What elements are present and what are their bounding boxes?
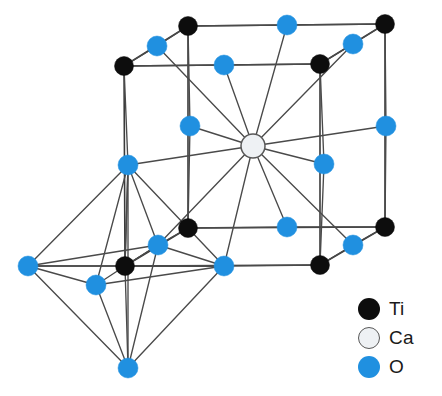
calcium-oxygen-bond [158, 146, 253, 245]
octahedron-edge [96, 285, 128, 368]
atom-ti-back-bot-left [179, 219, 198, 238]
legend-item-ti: Ti [358, 294, 442, 323]
element-legend: Ti Ca O [358, 294, 442, 390]
atom-ti-back-top-right [376, 15, 395, 34]
atom-group [18, 15, 396, 379]
atom-o-top-right-edge [343, 34, 363, 54]
atom-o-mid-right-upper [376, 116, 396, 136]
calcium-oxygen-bond [224, 146, 253, 266]
legend-label-ti: Ti [389, 298, 405, 320]
atom-o-bot-left-edge [148, 235, 168, 255]
atom-o-top-left-edge [147, 36, 167, 56]
atom-o-mid-right [314, 154, 334, 174]
atom-ti-back-top-left [179, 17, 198, 36]
atom-o-oct-front [86, 275, 106, 295]
atom-o-oct-bottom [118, 358, 138, 378]
atom-o-bot-back-edge [277, 217, 297, 237]
ti-swatch-icon [358, 298, 380, 320]
atom-o-oct-left [18, 256, 38, 276]
atom-o-bot-front-edge [214, 256, 234, 276]
ca-swatch-icon [358, 327, 380, 349]
calcium-oxygen-bond [128, 146, 253, 165]
calcium-oxygen-bond [224, 65, 253, 146]
octahedron-edge [128, 165, 158, 245]
atom-o-mid-left-upper [180, 116, 200, 136]
atom-ti-front-top-left [115, 57, 134, 76]
atom-ti-front-top-right [311, 55, 330, 74]
legend-item-o: O [358, 352, 442, 381]
legend-item-ca: Ca [358, 323, 442, 352]
crystal-structure-figure: Ti Ca O [0, 0, 442, 396]
atom-ti-back-bot-right [376, 218, 395, 237]
atom-ti-front-bot-right [311, 256, 330, 275]
atom-o-top-front-edge [214, 55, 234, 75]
octahedron-edge [28, 165, 128, 266]
octahedron-edge [128, 266, 224, 368]
octahedron-edge [96, 266, 224, 285]
atom-o-top-back-edge [277, 15, 297, 35]
calcium-oxygen-bond [253, 146, 287, 227]
atom-o-mid-left [118, 155, 138, 175]
atom-ca-center [241, 134, 265, 158]
o-swatch-icon [358, 356, 380, 378]
calcium-oxygen-bond [253, 146, 353, 245]
atom-ti-front-bot-left [116, 257, 135, 276]
legend-label-ca: Ca [389, 327, 414, 349]
atom-o-bot-right-edge [343, 235, 363, 255]
legend-label-o: O [389, 356, 404, 378]
octahedron-edge [28, 245, 158, 266]
octahedron-edge [28, 266, 128, 368]
